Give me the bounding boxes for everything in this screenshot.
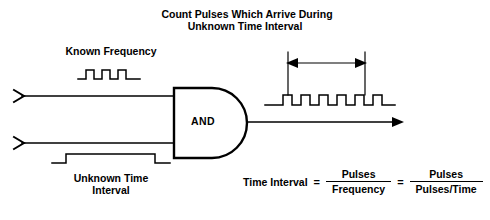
- and-gate-label: AND: [173, 116, 233, 128]
- formula-fraction-1-numerator: Pulses: [336, 168, 382, 181]
- diagram-heading: Count Pulses Which Arrive During Unknown…: [0, 9, 490, 33]
- formula-fraction-2-denominator: Pulses/Time: [410, 182, 483, 195]
- unknown-time-interval-label: Unknown Time Interval: [0, 173, 222, 197]
- diagram-heading-line-1: Count Pulses Which Arrive During: [4, 9, 490, 21]
- unknown-interval-input-arrowhead: [14, 137, 24, 149]
- time-interval-formula: Time Interval = Pulses Frequency = Pulse…: [243, 168, 483, 195]
- unknown-time-interval-label-line-1: Unknown Time: [0, 173, 222, 185]
- formula-equals-2: =: [397, 177, 403, 188]
- formula-fraction-2-numerator: Pulses: [423, 168, 469, 181]
- output-pulse-train: [265, 95, 395, 105]
- diagram-heading-line-2: Unknown Time Interval: [0, 21, 490, 33]
- formula-equals-1: =: [314, 177, 320, 188]
- formula-fraction-1: Pulses Frequency: [326, 168, 391, 195]
- frequency-counter-diagram: Count Pulses Which Arrive During Unknown…: [0, 0, 490, 220]
- output-arrowhead: [392, 117, 404, 127]
- known-frequency-waveform: [78, 70, 140, 79]
- formula-lhs: Time Interval: [243, 176, 308, 188]
- unknown-time-interval-label-line-2: Interval: [0, 185, 222, 197]
- known-frequency-input-arrowhead: [14, 90, 24, 102]
- known-frequency-label: Known Frequency: [0, 46, 222, 58]
- formula-fraction-2: Pulses Pulses/Time: [410, 168, 483, 195]
- unknown-interval-waveform: [52, 154, 170, 163]
- formula-fraction-1-denominator: Frequency: [326, 182, 391, 195]
